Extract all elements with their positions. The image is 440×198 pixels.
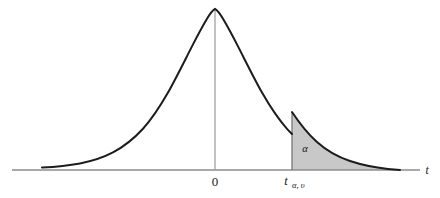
critical-value-subscript: α, υ — [292, 180, 305, 190]
tail-area-label: α — [302, 143, 308, 154]
critical-value-label: t — [284, 174, 288, 188]
origin-label: 0 — [212, 174, 219, 189]
t-distribution-figure: 0 t α, υ α t — [0, 0, 440, 198]
